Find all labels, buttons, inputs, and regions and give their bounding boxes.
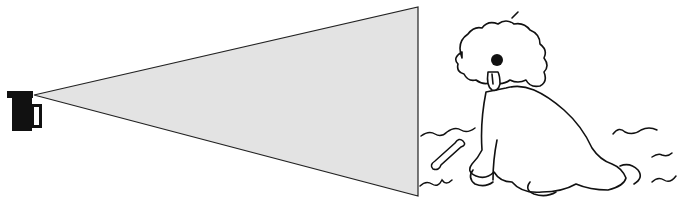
view-cone bbox=[34, 7, 418, 196]
dog-illustration bbox=[456, 12, 641, 196]
scene-drawing bbox=[0, 0, 693, 202]
bone bbox=[431, 139, 464, 169]
illustration-scene bbox=[0, 0, 693, 202]
camera-icon bbox=[7, 91, 42, 131]
